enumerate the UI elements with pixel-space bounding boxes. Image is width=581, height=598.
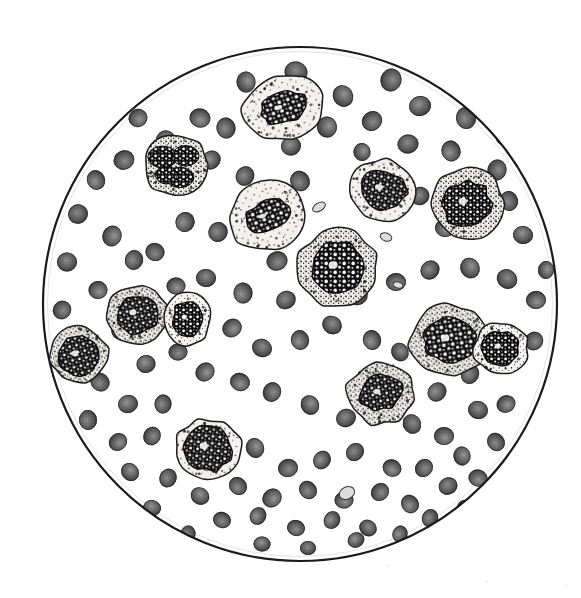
granule bbox=[170, 147, 172, 149]
granule bbox=[337, 299, 340, 302]
granule bbox=[454, 183, 457, 186]
granule bbox=[169, 312, 171, 314]
granule bbox=[172, 188, 175, 191]
blood-smear-figure: · · · bbox=[0, 0, 581, 598]
granule bbox=[510, 325, 513, 328]
granule bbox=[489, 368, 492, 371]
granule bbox=[198, 182, 200, 184]
nucleolus bbox=[329, 261, 338, 269]
granule bbox=[145, 169, 146, 170]
granule bbox=[198, 327, 200, 329]
granule bbox=[328, 241, 331, 244]
granule bbox=[523, 335, 525, 337]
granule bbox=[363, 286, 365, 288]
granule bbox=[465, 175, 467, 177]
granule bbox=[325, 237, 327, 239]
granule bbox=[171, 334, 173, 336]
stray-mark-3: · bbox=[564, 580, 568, 590]
granule bbox=[168, 323, 170, 325]
granule bbox=[158, 150, 161, 153]
granule bbox=[197, 171, 200, 174]
granule bbox=[202, 306, 205, 309]
granule bbox=[477, 353, 480, 356]
granule bbox=[336, 235, 339, 238]
granule bbox=[160, 179, 162, 181]
granule bbox=[491, 327, 494, 330]
granule bbox=[364, 267, 367, 270]
granule bbox=[199, 332, 202, 335]
granule bbox=[473, 176, 475, 178]
granule bbox=[333, 291, 335, 293]
granule bbox=[311, 266, 314, 269]
granule bbox=[152, 150, 155, 153]
granule bbox=[484, 179, 486, 181]
granule bbox=[162, 150, 164, 152]
granule bbox=[208, 321, 210, 323]
granule bbox=[522, 338, 524, 340]
granule bbox=[149, 172, 152, 175]
granule bbox=[352, 244, 354, 246]
granule bbox=[183, 139, 185, 141]
leukocyte-neutrophil bbox=[145, 136, 208, 196]
granule bbox=[314, 246, 316, 248]
stray-mark-1: · bbox=[386, 560, 390, 570]
granule bbox=[204, 309, 207, 312]
granule bbox=[479, 344, 481, 346]
granule bbox=[313, 291, 316, 294]
granule bbox=[330, 243, 332, 245]
granule bbox=[205, 159, 207, 161]
granule bbox=[519, 336, 521, 338]
granule bbox=[491, 205, 493, 207]
granule bbox=[197, 161, 199, 163]
granule bbox=[481, 358, 483, 360]
granule bbox=[354, 289, 356, 291]
granule bbox=[462, 230, 465, 233]
granule bbox=[188, 189, 190, 191]
granule bbox=[170, 139, 172, 141]
granule bbox=[448, 220, 449, 221]
granule bbox=[169, 309, 172, 312]
granule bbox=[203, 169, 206, 172]
granule bbox=[498, 191, 500, 193]
granule bbox=[153, 172, 156, 175]
granule bbox=[358, 241, 361, 244]
granule bbox=[452, 226, 455, 229]
nucleus-lobe bbox=[156, 166, 178, 184]
granule bbox=[468, 179, 471, 182]
granule bbox=[197, 304, 198, 305]
granule bbox=[361, 274, 363, 276]
granule bbox=[209, 317, 210, 318]
microscope-field-svg bbox=[0, 0, 581, 598]
granule bbox=[483, 354, 486, 357]
granule bbox=[451, 229, 453, 231]
granule bbox=[478, 184, 480, 186]
granule bbox=[442, 211, 444, 213]
granule bbox=[488, 211, 491, 214]
granule bbox=[460, 175, 463, 178]
granule bbox=[166, 192, 168, 194]
granule bbox=[150, 164, 152, 166]
granule bbox=[333, 237, 335, 239]
granule bbox=[489, 185, 491, 187]
granule bbox=[363, 280, 366, 283]
granule bbox=[317, 244, 319, 246]
granule bbox=[305, 278, 308, 281]
granule bbox=[491, 332, 493, 334]
nucleus-lobe bbox=[172, 146, 199, 166]
granule bbox=[361, 285, 363, 287]
granule bbox=[511, 367, 513, 369]
granule bbox=[483, 335, 486, 338]
granule bbox=[433, 207, 435, 209]
granule bbox=[190, 186, 193, 189]
granule bbox=[176, 334, 178, 336]
granule bbox=[471, 181, 473, 183]
nucleolus bbox=[459, 198, 467, 205]
granule bbox=[170, 316, 172, 318]
granule bbox=[477, 176, 480, 179]
granule bbox=[167, 144, 169, 146]
granule bbox=[334, 295, 336, 297]
granule bbox=[505, 332, 506, 333]
granule bbox=[482, 188, 485, 191]
granule bbox=[147, 175, 150, 178]
granule bbox=[504, 367, 507, 370]
